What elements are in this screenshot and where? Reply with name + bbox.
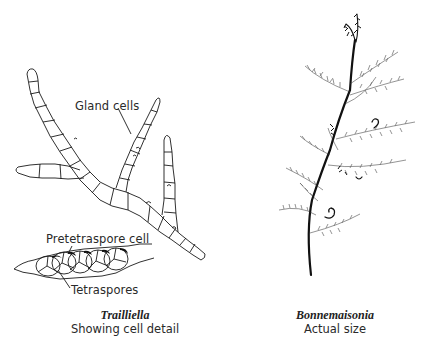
gland-cells-label: Gland cells: [75, 99, 139, 113]
bonnemaisonia-caption-subtitle: Actual size: [280, 322, 390, 336]
pretetraspore-cell-label: Pretetraspore cell: [46, 232, 149, 246]
side-branches: [279, 50, 415, 236]
trailliella-caption-title: Trailliella: [60, 308, 190, 323]
bonnemaisonia-illustration: [0, 0, 425, 338]
bonnemaisonia-caption-title: Bonnemaisonia: [280, 308, 390, 323]
trailliella-caption-subtitle: Showing cell detail: [50, 322, 200, 336]
tetraspores-label: Tetraspores: [71, 283, 138, 297]
figure-container: Gland cells Pretetraspore cell Tetraspor…: [0, 0, 425, 338]
